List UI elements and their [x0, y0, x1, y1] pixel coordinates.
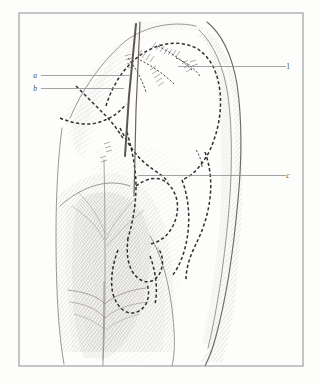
label-a: a — [33, 71, 37, 80]
label-b: b — [33, 84, 37, 93]
figure-root: a b 1 c — [0, 0, 321, 383]
label-1: 1 — [286, 62, 290, 71]
anatomical-figure-svg: a b 1 c — [0, 0, 321, 383]
